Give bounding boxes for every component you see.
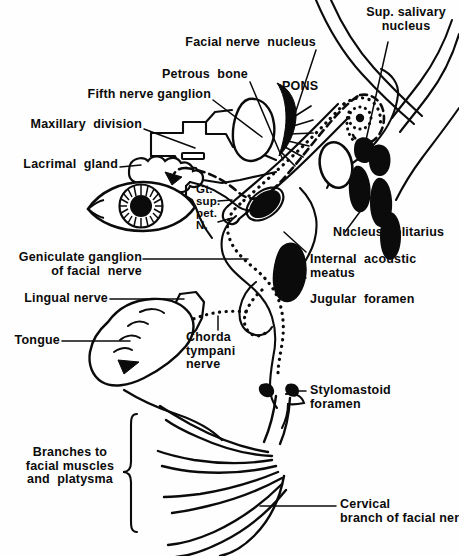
label-geniculate-ganglion: Geniculate ganglion of facial nerve (2, 251, 142, 278)
pupil (130, 195, 152, 217)
neck-posterior-contour (400, 34, 459, 132)
leader-sup-salivary-nucleus (366, 42, 388, 140)
label-internal-acoustic-meatus: Internal acoustic meatus (310, 253, 450, 280)
maxillary-division-box (182, 153, 204, 159)
label-petrous-bone: Petrous bone (130, 68, 248, 82)
facial-nerve-figure: Sup. salivary nucleus Facial nerve nucle… (0, 0, 459, 556)
label-stylomastoid-foramen: Stylomastoid foramen (310, 384, 420, 411)
branch-zygomatic-upper (158, 451, 272, 463)
label-maxillary-division: Maxillary division (10, 118, 142, 132)
facial-nerve-trunk-left (264, 396, 276, 442)
nucleus-blob-b (369, 144, 391, 176)
label-nucleus-solitarius: Nucleus solitarius (333, 226, 458, 240)
branch-zygomatic-lower (162, 466, 276, 473)
label-chorda-tympani-nerve: Chorda tympani nerve (186, 331, 254, 372)
label-lacrimal-gland: Lacrimal gland (10, 158, 118, 172)
label-pons: PONS (282, 80, 342, 94)
label-tongue: Tongue (6, 334, 60, 348)
label-sup-salivary-nucleus: Sup. salivary nucleus (356, 6, 456, 33)
occipital-contour (396, 108, 459, 200)
branch-buccal-upper (164, 472, 278, 497)
label-jugular-foramen: Jugular foramen (310, 293, 440, 307)
nucleus-center-dot (356, 114, 364, 122)
stylomastoid-mark-left (259, 383, 274, 397)
dotted-chorda-tympani-loop (244, 290, 268, 336)
label-facial-nerve-nucleus: Facial nerve nucleus (166, 36, 316, 50)
label-fifth-nerve-ganglion: Fifth nerve ganglion (66, 88, 211, 102)
facial-branch-fan (158, 396, 290, 556)
branch-marginal-mandibular-upper (168, 484, 282, 545)
label-branches-to-facial-muscles: Branches to facial muscles and platysma (14, 446, 126, 487)
branch-temporal-upper (160, 406, 268, 452)
label-gt-sup-pet-n: Gt. sup. pet. N. (196, 183, 226, 231)
geniculate-ganglion-shape (245, 186, 284, 223)
label-cervical-branch: Cervical branch of facial nerve (340, 498, 459, 525)
label-lingual-nerve: Lingual nerve (6, 292, 108, 306)
